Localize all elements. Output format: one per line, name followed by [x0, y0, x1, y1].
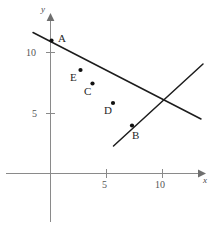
scatter-plot-figure: y x 5 10 5 10 A E C D B: [0, 0, 216, 232]
point-label-b: B: [132, 130, 139, 141]
y-tick-label-10: 10: [26, 48, 36, 58]
data-point-a: [49, 38, 53, 42]
descending-line: [33, 33, 201, 120]
y-axis-label: y: [41, 5, 45, 14]
data-point-e: [78, 68, 82, 72]
point-label-d: D: [104, 105, 112, 116]
x-tick-label-10: 10: [155, 180, 165, 190]
point-label-a: A: [58, 33, 66, 44]
data-point-c: [90, 81, 94, 85]
y-tick-label-5: 5: [32, 109, 37, 119]
x-axis-label: x: [203, 176, 207, 185]
y-axis-arrow-icon: [47, 13, 55, 21]
x-tick-label-5: 5: [102, 180, 107, 190]
data-point-b: [130, 123, 134, 127]
point-label-c: C: [84, 86, 91, 97]
point-label-e: E: [70, 72, 77, 83]
ascending-line: [114, 64, 204, 146]
